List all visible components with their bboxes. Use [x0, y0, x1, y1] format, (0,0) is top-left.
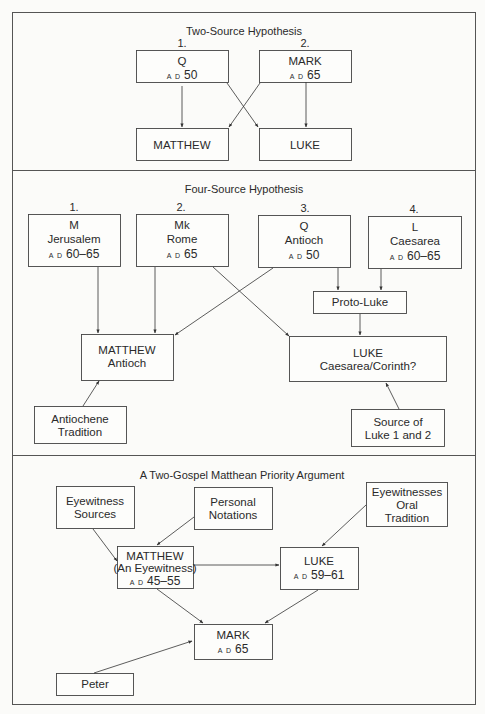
arrow: [83, 381, 99, 406]
svg-text:Antioch: Antioch: [108, 357, 146, 369]
node-personal-notations: Personal Notations: [195, 488, 273, 530]
arrow: [265, 590, 318, 623]
node-matthew: MATTHEW: [137, 129, 229, 161]
svg-text:Caesarea: Caesarea: [390, 235, 440, 247]
arrow: [93, 529, 117, 561]
node-mk: Mk Rome A D65: [137, 215, 229, 267]
svg-text:LUKE: LUKE: [290, 139, 320, 151]
svg-text:Q: Q: [300, 220, 309, 232]
svg-text:(An Eyewitness): (An Eyewitness): [113, 562, 196, 574]
node-mark: MARK A D65: [195, 625, 273, 660]
svg-text:Mk: Mk: [174, 219, 190, 231]
svg-text:LUKE: LUKE: [304, 555, 334, 567]
section-title: Four-Source Hypothesis: [185, 183, 304, 195]
svg-text:Antioch: Antioch: [285, 234, 323, 246]
section-title: Two-Source Hypothesis: [186, 25, 303, 37]
node-number: 2.: [176, 201, 185, 213]
section-matthean-priority: A Two-Gospel Matthean Priority Argument …: [57, 469, 448, 696]
svg-text:Personal: Personal: [210, 496, 255, 508]
node-number: 2.: [300, 37, 309, 49]
node-m: M Jerusalem A D60–65: [29, 215, 121, 267]
svg-text:Jerusalem: Jerusalem: [47, 233, 100, 245]
node-q: Q Antioch A D50: [259, 216, 351, 268]
node-matthew: MATTHEW (An Eyewitness) A D45–55: [113, 547, 196, 589]
svg-text:Sources: Sources: [74, 508, 116, 520]
section-four-source: Four-Source Hypothesis 1. M Jerusalem A …: [29, 183, 462, 447]
section-two-source: Two-Source Hypothesis 1. Q A D50 2. MARK…: [137, 25, 352, 161]
arrow: [94, 641, 192, 673]
arrow: [227, 83, 258, 127]
svg-text:Eyewitnesses: Eyewitnesses: [372, 486, 443, 498]
svg-text:MATTHEW: MATTHEW: [98, 344, 155, 356]
arrow: [157, 589, 203, 623]
node-antiochene-tradition: Antiochene Tradition: [35, 407, 127, 444]
svg-text:Eyewitness: Eyewitness: [66, 495, 124, 507]
node-number: 1.: [177, 37, 186, 49]
svg-text:Oral: Oral: [396, 499, 418, 511]
svg-text:Peter: Peter: [81, 678, 109, 690]
svg-text:L: L: [412, 221, 419, 233]
svg-text:Rome: Rome: [167, 233, 198, 245]
node-matthew: MATTHEW Antioch: [82, 335, 174, 381]
svg-text:MARK: MARK: [216, 629, 250, 641]
svg-text:MATTHEW: MATTHEW: [126, 550, 183, 562]
svg-text:MARK: MARK: [288, 55, 322, 67]
node-l: L Caesarea A D60–65: [369, 217, 462, 269]
arrow: [175, 268, 273, 335]
node-luke: LUKE A D59–61: [281, 548, 359, 590]
arrow: [386, 383, 399, 409]
section-title: A Two-Gospel Matthean Priority Argument: [140, 469, 345, 481]
node-peter: Peter: [57, 674, 134, 696]
svg-text:M: M: [69, 219, 79, 231]
node-proto-luke: Proto-Luke: [314, 292, 407, 314]
node-mark: MARK A D65: [260, 51, 352, 83]
svg-text:MATTHEW: MATTHEW: [153, 139, 210, 151]
svg-text:Tradition: Tradition: [385, 512, 429, 524]
node-source-luke-1-2: Source of Luke 1 and 2: [352, 410, 445, 447]
svg-text:Caesarea/Corinth?: Caesarea/Corinth?: [320, 360, 417, 372]
synoptic-diagram: Two-Source Hypothesis 1. Q A D50 2. MARK…: [0, 0, 485, 714]
arrow: [157, 517, 194, 545]
svg-text:Source of: Source of: [373, 416, 423, 428]
svg-text:Luke 1 and 2: Luke 1 and 2: [365, 429, 432, 441]
svg-text:Tradition: Tradition: [58, 426, 102, 438]
node-q: Q A D50: [137, 51, 229, 83]
node-luke: LUKE Caesarea/Corinth?: [290, 337, 447, 382]
node-eyewitness-sources: Eyewitness Sources: [57, 487, 135, 529]
svg-text:LUKE: LUKE: [353, 347, 383, 359]
node-number: 1.: [69, 201, 78, 213]
arrow: [322, 505, 366, 546]
node-eyewitnesses-oral-tradition: Eyewitnesses Oral Tradition: [367, 483, 448, 527]
node-number: 3.: [300, 202, 309, 214]
svg-text:Notations: Notations: [209, 509, 258, 521]
node-number: 4.: [409, 203, 418, 215]
svg-text:Proto-Luke: Proto-Luke: [332, 296, 388, 308]
node-luke: LUKE: [260, 129, 352, 161]
arrow: [229, 83, 260, 127]
svg-text:Q: Q: [178, 55, 187, 67]
svg-text:Antiochene: Antiochene: [51, 413, 109, 425]
